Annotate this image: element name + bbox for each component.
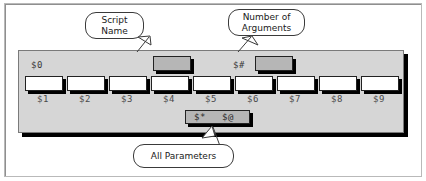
number-arguments-callout-tail [228,34,262,58]
argument-count-value-box [255,56,293,71]
diagram-canvas: $0 $# $1 $2 $3 $4 $5 $6 $7 [0,0,426,181]
parameter-label-1: $1 [37,95,49,104]
parameter-box-7-face [277,76,315,91]
parameter-label-4: $4 [163,95,175,104]
parameter-label-3: $3 [121,95,133,104]
all-parameters-at-symbol: $@ [222,113,234,122]
argument-count-value-box-face [255,56,293,71]
parameter-box-9 [361,76,399,91]
callout-all-parameters: All Parameters [133,144,234,168]
parameter-label-8: $8 [331,95,343,104]
parameter-box-4-face [151,76,189,91]
parameter-label-7: $7 [289,95,301,104]
callout-number-of-arguments: Number of Arguments [228,9,305,36]
callout-number-of-arguments-line-1: Number of [243,12,291,23]
callout-script-name: Script Name [85,12,144,39]
script-name-value-box-face [153,56,191,71]
parameter-box-1 [25,76,63,91]
parameter-box-9-face [361,76,399,91]
argument-count-parameter-label: $# [233,61,245,70]
parameter-box-8 [319,76,357,91]
script-name-callout-tail [120,36,152,58]
parameter-label-9: $9 [373,95,385,104]
parameter-box-2 [67,76,105,91]
parameter-box-5 [193,76,231,91]
parameter-box-4 [151,76,189,91]
parameter-box-5-face [193,76,231,91]
callout-number-of-arguments-line-2: Arguments [242,23,291,34]
script-name-value-box [153,56,191,71]
parameter-label-2: $2 [79,95,91,104]
all-parameters-star-symbol: $* [194,113,206,122]
callout-all-parameters-line-1: All Parameters [151,151,217,162]
script-name-parameter-label: $0 [31,61,43,70]
parameter-box-3-face [109,76,147,91]
parameter-box-1-face [25,76,63,91]
parameter-box-3 [109,76,147,91]
parameter-label-5: $5 [205,95,217,104]
parameter-box-2-face [67,76,105,91]
callout-script-name-line-2: Name [101,26,128,37]
parameter-box-7 [277,76,315,91]
parameter-box-8-face [319,76,357,91]
callout-script-name-line-1: Script [101,15,127,26]
parameter-label-6: $6 [247,95,259,104]
parameter-box-6 [235,76,273,91]
parameter-box-6-face [235,76,273,91]
all-parameters-bar: $* $@ [185,110,250,124]
